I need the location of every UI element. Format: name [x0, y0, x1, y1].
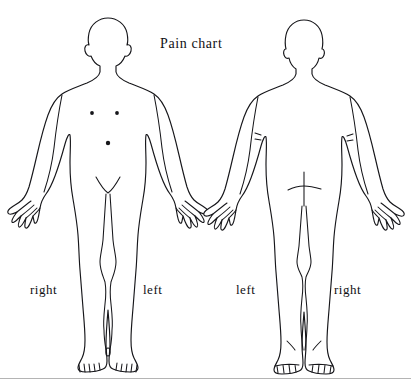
pain-chart-page: Pain chart right left left right [0, 0, 411, 388]
anterior-right-side-label: left [143, 282, 162, 297]
pain-chart-figure-canvas[interactable]: Pain chart right left left right [0, 0, 411, 388]
anterior-body-figure[interactable] [8, 18, 209, 372]
posterior-body-figure[interactable] [204, 20, 405, 374]
anterior-nipple-right-dot [115, 111, 119, 115]
page-title: Pain chart [160, 36, 222, 51]
anterior-nipple-left-dot [90, 111, 94, 115]
posterior-right-side-label: right [334, 282, 361, 297]
posterior-left-side-label: left [236, 282, 255, 297]
anterior-navel-dot [106, 141, 110, 145]
anterior-left-side-label: right [30, 282, 57, 297]
anterior-body-outline[interactable] [8, 18, 209, 372]
